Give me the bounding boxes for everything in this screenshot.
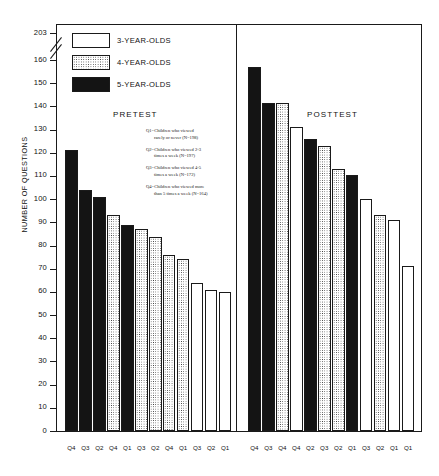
y-tick-mark xyxy=(50,292,56,293)
x-tick-label: Q1 xyxy=(346,444,359,451)
x-tick-label: Q1 xyxy=(388,444,401,451)
x-tick-label: Q4 xyxy=(163,444,176,451)
y-tick-label: 130 xyxy=(34,124,47,133)
bar xyxy=(374,215,387,431)
bar xyxy=(149,237,162,431)
y-tick-60: 60 xyxy=(0,292,56,293)
bar xyxy=(205,290,218,431)
y-tick-label: 120 xyxy=(34,147,47,156)
bar xyxy=(135,229,148,431)
x-tick-label: Q2 xyxy=(93,444,106,451)
bar xyxy=(121,225,134,431)
x-axis-labels-pretest: Q4Q3Q2Q4Q1Q3Q2Q4Q1Q3Q2Q1 xyxy=(65,436,233,448)
bar-group-posttest xyxy=(248,25,416,431)
plot-area xyxy=(57,25,421,431)
bar xyxy=(276,103,289,431)
y-tick-140: 140 xyxy=(0,106,56,107)
y-tick-80: 80 xyxy=(0,246,56,247)
y-tick-mark xyxy=(50,199,56,200)
bar xyxy=(248,67,261,431)
y-tick-mark xyxy=(50,60,56,61)
bar xyxy=(290,127,303,431)
y-tick-160: 160 xyxy=(0,60,56,61)
y-tick-label: 140 xyxy=(34,101,47,110)
x-tick-label: Q2 xyxy=(205,444,218,451)
y-tick-label: 60 xyxy=(38,286,47,295)
y-tick-30: 30 xyxy=(0,361,56,362)
y-tick-0: 0 xyxy=(0,431,56,432)
y-tick-100: 100 xyxy=(0,199,56,200)
y-tick-label: 0 xyxy=(43,426,47,435)
y-tick-mark xyxy=(50,269,56,270)
y-tick-50: 50 xyxy=(0,315,56,316)
x-tick-label: Q2 xyxy=(332,444,345,451)
bar xyxy=(402,266,415,431)
x-tick-label: Q1 xyxy=(121,444,134,451)
y-tick-label: 150 xyxy=(34,78,47,87)
bar xyxy=(304,139,317,431)
y-tick-label: 90 xyxy=(38,217,47,226)
chart-figure: NUMBER OF QUESTIONS 20316015014013012011… xyxy=(0,0,439,476)
bar xyxy=(107,215,120,431)
x-tick-label: Q4 xyxy=(65,444,78,451)
y-tick-110: 110 xyxy=(0,176,56,177)
y-tick-label: 70 xyxy=(38,263,47,272)
y-axis-title: NUMBER OF QUESTIONS xyxy=(20,125,29,245)
bar xyxy=(332,169,345,431)
bar xyxy=(79,190,92,431)
y-tick-mark xyxy=(50,176,56,177)
y-tick-203: 203 xyxy=(0,33,56,34)
y-tick-mark xyxy=(50,33,56,34)
y-tick-mark xyxy=(50,130,56,131)
bar xyxy=(360,199,373,431)
y-tick-mark xyxy=(50,408,56,409)
x-tick-label: Q3 xyxy=(318,444,331,451)
y-tick-mark xyxy=(50,385,56,386)
y-tick-20: 20 xyxy=(0,385,56,386)
x-tick-label: Q3 xyxy=(79,444,92,451)
x-tick-label: Q4 xyxy=(290,444,303,451)
y-tick-label: 50 xyxy=(38,310,47,319)
y-tick-mark xyxy=(50,106,56,107)
y-tick-40: 40 xyxy=(0,338,56,339)
x-tick-label: Q4 xyxy=(107,444,120,451)
y-tick-10: 10 xyxy=(0,408,56,409)
y-tick-label: 10 xyxy=(38,402,47,411)
bar xyxy=(93,197,106,431)
y-tick-label: 40 xyxy=(38,333,47,342)
bar xyxy=(388,220,401,431)
y-tick-mark xyxy=(50,338,56,339)
bar xyxy=(318,146,331,431)
y-tick-mark xyxy=(50,246,56,247)
y-tick-150: 150 xyxy=(0,83,56,84)
x-tick-label: Q2 xyxy=(374,444,387,451)
y-tick-130: 130 xyxy=(0,130,56,131)
x-tick-label: Q4 xyxy=(248,444,261,451)
x-tick-label: Q2 xyxy=(304,444,317,451)
x-tick-label: Q1 xyxy=(219,444,232,451)
bar xyxy=(219,292,232,431)
x-tick-label: Q3 xyxy=(360,444,373,451)
y-tick-mark xyxy=(50,431,56,432)
bar xyxy=(262,103,275,431)
y-tick-mark xyxy=(50,361,56,362)
bar xyxy=(65,150,78,431)
y-tick-label: 100 xyxy=(34,194,47,203)
y-tick-mark xyxy=(50,315,56,316)
x-tick-label: Q2 xyxy=(149,444,162,451)
x-tick-label: Q1 xyxy=(177,444,190,451)
y-tick-label: 203 xyxy=(34,28,47,37)
y-tick-label: 110 xyxy=(34,170,47,179)
x-tick-label: Q3 xyxy=(191,444,204,451)
y-tick-label: 30 xyxy=(38,356,47,365)
x-axis-labels-posttest: Q4Q3Q4Q4Q2Q3Q2Q1Q3Q2Q1Q1 xyxy=(248,436,416,448)
y-tick-label: 160 xyxy=(34,55,47,64)
bar xyxy=(346,175,359,431)
x-tick-label: Q3 xyxy=(135,444,148,451)
y-tick-mark xyxy=(50,153,56,154)
x-tick-label: Q3 xyxy=(262,444,275,451)
y-tick-label: 80 xyxy=(38,240,47,249)
bar xyxy=(191,283,204,431)
y-tick-70: 70 xyxy=(0,269,56,270)
bar-group-pretest xyxy=(65,25,233,431)
